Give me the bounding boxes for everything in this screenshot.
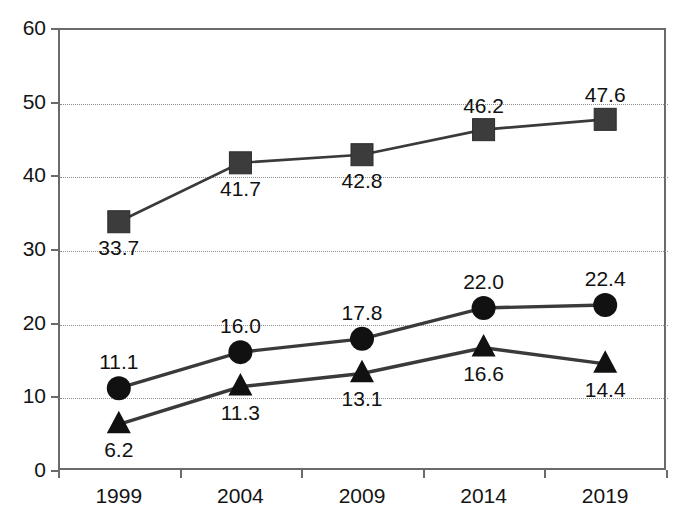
line-chart: 605040302010019992004200920142019 33.741… xyxy=(0,0,684,522)
data-value-label: 41.7 xyxy=(220,177,261,201)
y-axis-tick-mark xyxy=(51,102,58,104)
y-axis-tick-mark xyxy=(51,249,58,251)
data-value-label: 16.0 xyxy=(220,314,261,338)
data-value-label: 11.1 xyxy=(99,350,138,374)
y-axis-tick-label: 20 xyxy=(0,311,46,335)
data-value-label: 22.4 xyxy=(585,267,626,291)
x-axis-tick-label: 2014 xyxy=(460,484,507,508)
data-value-label: 33.7 xyxy=(98,236,139,260)
x-axis-tick-label: 2004 xyxy=(217,484,264,508)
x-axis-tick-mark xyxy=(423,470,425,478)
x-axis-tick-mark xyxy=(666,470,668,478)
data-value-label: 22.0 xyxy=(463,270,504,294)
x-axis-tick-mark xyxy=(544,470,546,478)
data-value-label: 11.3 xyxy=(221,401,260,425)
data-value-label: 47.6 xyxy=(585,83,626,107)
x-axis-tick-mark xyxy=(58,470,60,478)
y-axis-tick-label: 60 xyxy=(0,16,46,40)
x-axis-tick-mark xyxy=(180,470,182,478)
data-value-label: 13.1 xyxy=(342,387,383,411)
y-axis-tick-label: 40 xyxy=(0,163,46,187)
gridline xyxy=(60,251,668,252)
data-value-label: 46.2 xyxy=(463,94,504,118)
gridline xyxy=(60,104,668,105)
y-axis-tick-mark xyxy=(51,470,58,472)
y-axis-tick-mark xyxy=(51,323,58,325)
y-axis-tick-mark xyxy=(51,28,58,30)
y-axis-tick-label: 10 xyxy=(0,384,46,408)
data-value-label: 17.8 xyxy=(342,301,383,325)
x-axis-tick-mark xyxy=(301,470,303,478)
y-axis-tick-label: 30 xyxy=(0,237,46,261)
data-value-label: 14.4 xyxy=(585,378,626,402)
y-axis-tick-label: 0 xyxy=(0,458,46,482)
x-axis-tick-label: 2019 xyxy=(582,484,629,508)
x-axis-tick-label: 1999 xyxy=(95,484,142,508)
data-value-label: 6.2 xyxy=(104,438,133,462)
y-axis-tick-label: 50 xyxy=(0,90,46,114)
x-axis-tick-label: 2009 xyxy=(339,484,386,508)
data-value-label: 16.6 xyxy=(463,362,504,386)
data-value-label: 42.8 xyxy=(342,169,383,193)
y-axis-tick-mark xyxy=(51,396,58,398)
y-axis-tick-mark xyxy=(51,175,58,177)
